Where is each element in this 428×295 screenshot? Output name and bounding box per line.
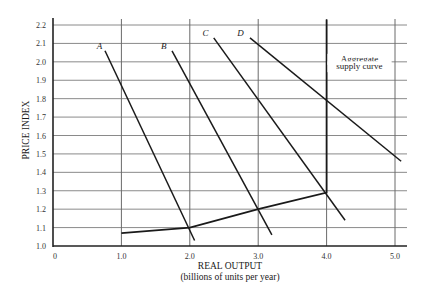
x-tick-label: 1.0 (116, 252, 126, 261)
y-tick-label: 2.0 (36, 58, 46, 67)
y-tick-label: 1.7 (36, 113, 46, 122)
y-tick-label: 1.8 (36, 95, 46, 104)
y-tick-label: 1.5 (36, 150, 46, 159)
y-tick-label: 1.3 (36, 187, 46, 196)
x-tick-label: 3.0 (253, 252, 263, 261)
y-tick-label: 1.0 (36, 242, 46, 251)
x-axis-title: REAL OUTPUT (198, 261, 262, 271)
y-tick-label: 1.4 (36, 168, 46, 177)
y-tick-label: 1.1 (36, 224, 46, 233)
y-tick-label: 1.6 (36, 132, 46, 141)
demand-curve-b (172, 51, 272, 235)
x-tick-label: 0 (53, 252, 57, 261)
y-tick-label: 1.9 (36, 76, 46, 85)
y-axis-title: PRICE INDEX (21, 100, 31, 159)
x-tick-label: 2.0 (185, 252, 195, 261)
x-tick-label: 5.0 (390, 252, 400, 261)
annotations: Aggregatesupply curve (327, 54, 391, 72)
x-axis-subtitle: (billions of units per year) (180, 272, 279, 283)
y-tick-label: 2.1 (36, 39, 46, 48)
curve-label-c: C (203, 28, 210, 38)
x-tick-label: 4.0 (322, 252, 332, 261)
y-tick-label: 1.2 (36, 205, 46, 214)
curve-label-d: D (236, 28, 244, 38)
y-tick-label: 2.2 (36, 21, 46, 30)
curve-label-b: B (161, 41, 167, 51)
series-labels: ABCD (96, 28, 244, 51)
supply-curve-annotation: supply curve (336, 61, 382, 71)
curve-label-a: A (96, 41, 103, 51)
series-lines (105, 19, 401, 240)
demand-curve-a (105, 51, 195, 241)
aggregate-supply-demand-chart: 1.01.11.21.31.41.51.61.71.81.92.02.12.20… (0, 0, 428, 295)
